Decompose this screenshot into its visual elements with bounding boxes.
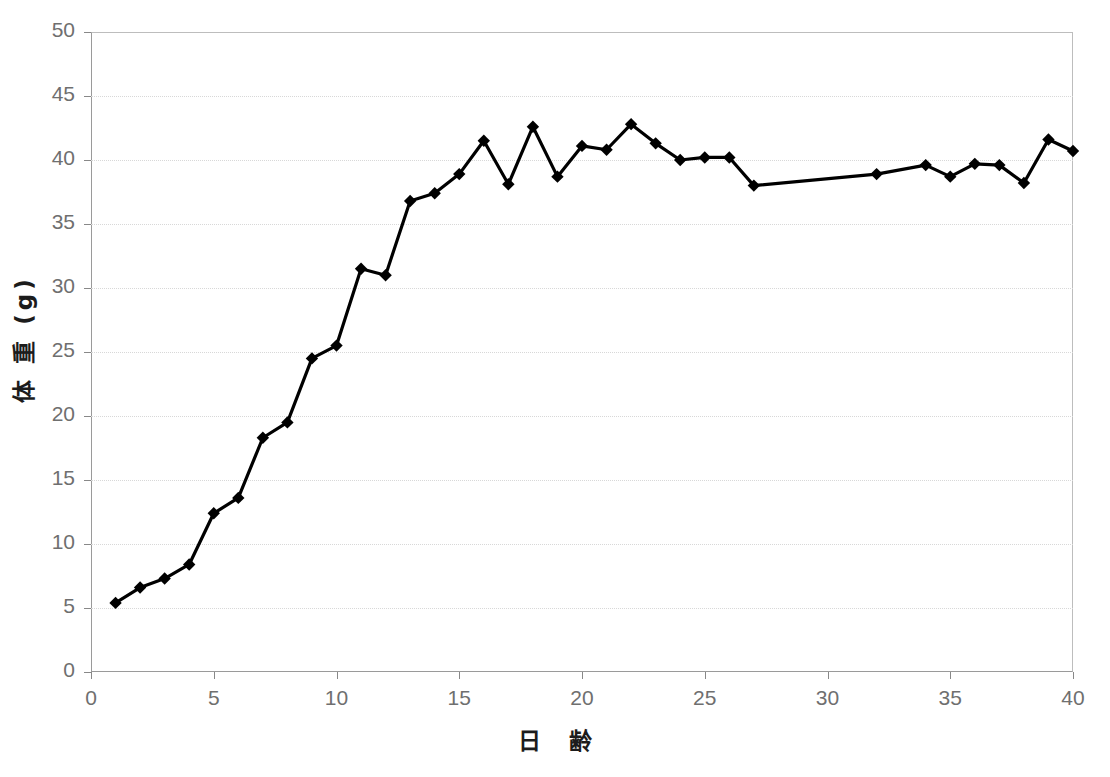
x-axis-tick bbox=[337, 672, 338, 679]
y-axis-tick bbox=[84, 480, 91, 481]
x-axis-title: 日 齢 bbox=[0, 722, 1110, 756]
y-axis-tick bbox=[84, 544, 91, 545]
y-axis-title: 体 重 (g) bbox=[5, 169, 39, 509]
x-axis-tick bbox=[459, 672, 460, 679]
y-axis-tick-label: 0 bbox=[15, 658, 75, 682]
y-axis-tick bbox=[84, 352, 91, 353]
data-point-marker bbox=[1067, 145, 1079, 157]
x-axis-tick-label: 40 bbox=[1048, 686, 1098, 710]
y-axis-tick-label: 50 bbox=[15, 18, 75, 42]
data-point-marker bbox=[944, 170, 956, 182]
x-axis-tick-label: 0 bbox=[66, 686, 116, 710]
data-series-line bbox=[91, 32, 1073, 672]
y-axis-tick bbox=[84, 672, 91, 673]
data-point-marker bbox=[870, 168, 882, 180]
x-axis-tick-label: 30 bbox=[803, 686, 853, 710]
plot-area bbox=[91, 32, 1073, 672]
data-point-marker bbox=[306, 352, 318, 364]
data-point-marker bbox=[502, 178, 514, 190]
y-axis-tick bbox=[84, 608, 91, 609]
x-axis-tick bbox=[950, 672, 951, 679]
data-point-marker bbox=[404, 195, 416, 207]
data-point-marker bbox=[183, 558, 195, 570]
x-axis-tick-label: 20 bbox=[557, 686, 607, 710]
series-polyline bbox=[116, 124, 1073, 603]
y-axis-tick bbox=[84, 288, 91, 289]
x-axis-tick bbox=[91, 672, 92, 679]
data-point-marker bbox=[527, 121, 539, 133]
x-axis-tick bbox=[214, 672, 215, 679]
x-axis-tick-label: 15 bbox=[434, 686, 484, 710]
x-axis-tick-label: 5 bbox=[189, 686, 239, 710]
y-axis-tick bbox=[84, 224, 91, 225]
data-point-marker bbox=[699, 151, 711, 163]
x-axis-tick-label: 35 bbox=[925, 686, 975, 710]
y-axis-tick-label: 45 bbox=[15, 82, 75, 106]
chart-figure: 05101520253035404550 0510152025303540 体 … bbox=[0, 0, 1110, 777]
data-point-marker bbox=[379, 269, 391, 281]
x-axis-tick bbox=[582, 672, 583, 679]
y-axis-tick-label: 5 bbox=[15, 594, 75, 618]
x-axis-tick bbox=[705, 672, 706, 679]
data-point-marker bbox=[920, 159, 932, 171]
x-axis-tick-label: 10 bbox=[312, 686, 362, 710]
x-axis-tick bbox=[1073, 672, 1074, 679]
y-axis-tick bbox=[84, 160, 91, 161]
data-point-marker bbox=[330, 339, 342, 351]
data-point-marker bbox=[969, 158, 981, 170]
data-point-marker bbox=[1042, 133, 1054, 145]
x-axis-tick bbox=[828, 672, 829, 679]
y-axis-tick-label: 10 bbox=[15, 530, 75, 554]
x-axis-tick-label: 25 bbox=[680, 686, 730, 710]
y-axis-tick bbox=[84, 32, 91, 33]
data-point-marker bbox=[158, 572, 170, 584]
y-axis-tick-label: 40 bbox=[15, 146, 75, 170]
y-axis-tick bbox=[84, 416, 91, 417]
data-point-marker bbox=[355, 263, 367, 275]
y-axis-tick bbox=[84, 96, 91, 97]
